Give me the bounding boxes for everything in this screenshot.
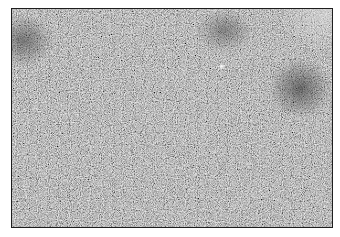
dark-patch-right: [268, 59, 332, 118]
image-canvas: [0, 0, 340, 237]
texture-noise: [12, 9, 332, 227]
dark-patch-top-center: [197, 9, 253, 53]
texture-photo: [11, 8, 333, 228]
bright-speck: [218, 64, 226, 70]
